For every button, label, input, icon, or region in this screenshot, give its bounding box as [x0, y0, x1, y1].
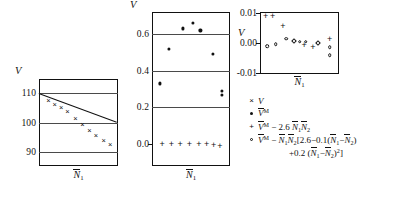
panel-1: V 110 100 90 × × × × × × × × × × N1: [39, 79, 118, 166]
filled-circle-marker-icon: [245, 108, 258, 118]
panel-2-ytick-02: 0.2: [137, 102, 152, 112]
panel-3-data-point: [274, 42, 278, 46]
panel-1-data-point: ×: [46, 97, 50, 105]
panel-1-ytick-110: 110: [22, 88, 39, 98]
panel-1-data-point: ×: [108, 141, 112, 149]
panel-3-data-point: [328, 46, 332, 50]
legend-label-vm-poly-continuation: +0.2 (N1−N2)2]: [289, 148, 356, 160]
panel-2: V 0.6 0.4 0.2 0.0 + + + + + + + + N1: [152, 12, 230, 166]
panel-3-data-point: +: [270, 11, 275, 20]
panel-2-data-point: +: [169, 139, 174, 148]
legend-label-vm: VM: [258, 108, 269, 119]
panel-3-data-point: [304, 40, 308, 44]
panel-1-data-point: ×: [59, 104, 63, 112]
panel-3-y-axis-label: V: [238, 27, 244, 38]
panel-3-ytick-000: 0.00: [240, 38, 260, 48]
legend-label-vm-poly: VM − N1N2[2.6−0.1(N1−N2): [258, 135, 356, 147]
panel-3: V 0.01 0.00 -0.01 + + + + + + N1: [260, 12, 339, 74]
legend-entry-vm-linear: + VM − 2.6 N1N2: [245, 122, 356, 134]
panel-1-ytick-100: 100: [21, 118, 39, 128]
cross-marker-icon: ×: [245, 96, 258, 106]
legend: × V VM + VM − 2.6 N1N2 VM − N1N2[2.6−0.1…: [245, 96, 356, 160]
panel-2-data-point: +: [177, 139, 182, 148]
panel-1-gridline-110: [39, 93, 118, 94]
legend-label-vm-linear: VM − 2.6 N1N2: [258, 122, 310, 134]
legend-label-v: V: [258, 96, 264, 107]
panel-1-y-axis-label: V: [15, 65, 21, 76]
panel-1-data-point: ×: [102, 137, 106, 145]
panel-3-data-point: [298, 40, 302, 44]
panel-2-gridline-04: [152, 71, 230, 72]
panel-1-data-point: ×: [87, 127, 91, 135]
panel-1-gridline-100: [39, 123, 118, 124]
panel-1-gridline-90: [39, 152, 118, 153]
panel-3-data-point: +: [263, 12, 268, 21]
panel-2-data-point: +: [187, 139, 192, 148]
panel-3-x-axis-label: N1: [260, 76, 339, 88]
panel-1-data-point: ×: [65, 108, 69, 116]
panel-2-data-point: +: [217, 141, 222, 150]
panel-1-data-point: ×: [80, 121, 84, 129]
panel-1-x-axis-label: N1: [39, 169, 118, 181]
panel-2-data-point: +: [204, 139, 209, 148]
open-circle-marker-icon: [245, 135, 258, 145]
panel-1-data-point: ×: [94, 132, 98, 140]
panel-2-data-point: +: [211, 141, 216, 150]
panel-2-ytick-06: 0.6: [137, 29, 152, 39]
panel-1-data-point: ×: [53, 101, 57, 109]
plus-marker-icon: +: [245, 122, 258, 132]
panel-3-data-point: [284, 37, 288, 41]
panel-2-ytick-00: 0.0: [137, 139, 152, 149]
panel-2-gridline-06: [152, 34, 230, 35]
panel-2-gridline-02: [152, 107, 230, 108]
panel-1-ytick-90: 90: [26, 147, 39, 157]
legend-entry-vm-poly: VM − N1N2[2.6−0.1(N1−N2): [245, 135, 356, 147]
panel-2-data-point: +: [196, 139, 201, 148]
legend-entry-v: × V: [245, 96, 356, 107]
panel-3-ytick-minus001: -0.01: [237, 68, 260, 78]
panel-3-data-point: [265, 44, 269, 48]
panel-3-ytick-001: 0.01: [240, 8, 260, 18]
legend-entry-vm: VM: [245, 108, 356, 119]
panel-2-data-point: +: [159, 139, 164, 148]
panel-3-data-point: +: [327, 35, 332, 44]
panel-2-ytick-04: 0.4: [137, 66, 152, 76]
panel-2-y-axis-label: V: [130, 0, 136, 10]
figure-root: V 110 100 90 × × × × × × × × × × N1 V 0.…: [0, 0, 413, 202]
panel-2-x-axis-label: N1: [152, 169, 230, 181]
panel-3-data-point: +: [280, 21, 285, 30]
panel-1-data-point: ×: [73, 116, 77, 124]
panel-3-data-point: [328, 54, 332, 58]
